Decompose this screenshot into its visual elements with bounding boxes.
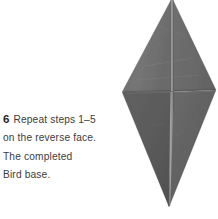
instruction-line-4: Bird base. — [3, 166, 133, 184]
instruction-text-block: 6Repeat steps 1–5 on the reverse face. T… — [3, 110, 133, 184]
upper-right-panel — [172, 0, 216, 92]
lower-left-panel — [122, 92, 172, 207]
bird-base-origami-figure — [115, 0, 218, 211]
instruction-line-1-text: Repeat steps 1–5 — [13, 114, 95, 125]
bird-base-svg — [115, 0, 218, 211]
upper-center-crease — [170, 0, 173, 91]
instruction-line-1: 6Repeat steps 1–5 — [3, 110, 133, 129]
instruction-line-2: on the reverse face. — [3, 129, 133, 147]
origami-instruction-page: 6Repeat steps 1–5 on the reverse face. T… — [0, 0, 218, 219]
instruction-line-3: The completed — [3, 148, 133, 166]
step-number: 6 — [3, 112, 9, 125]
